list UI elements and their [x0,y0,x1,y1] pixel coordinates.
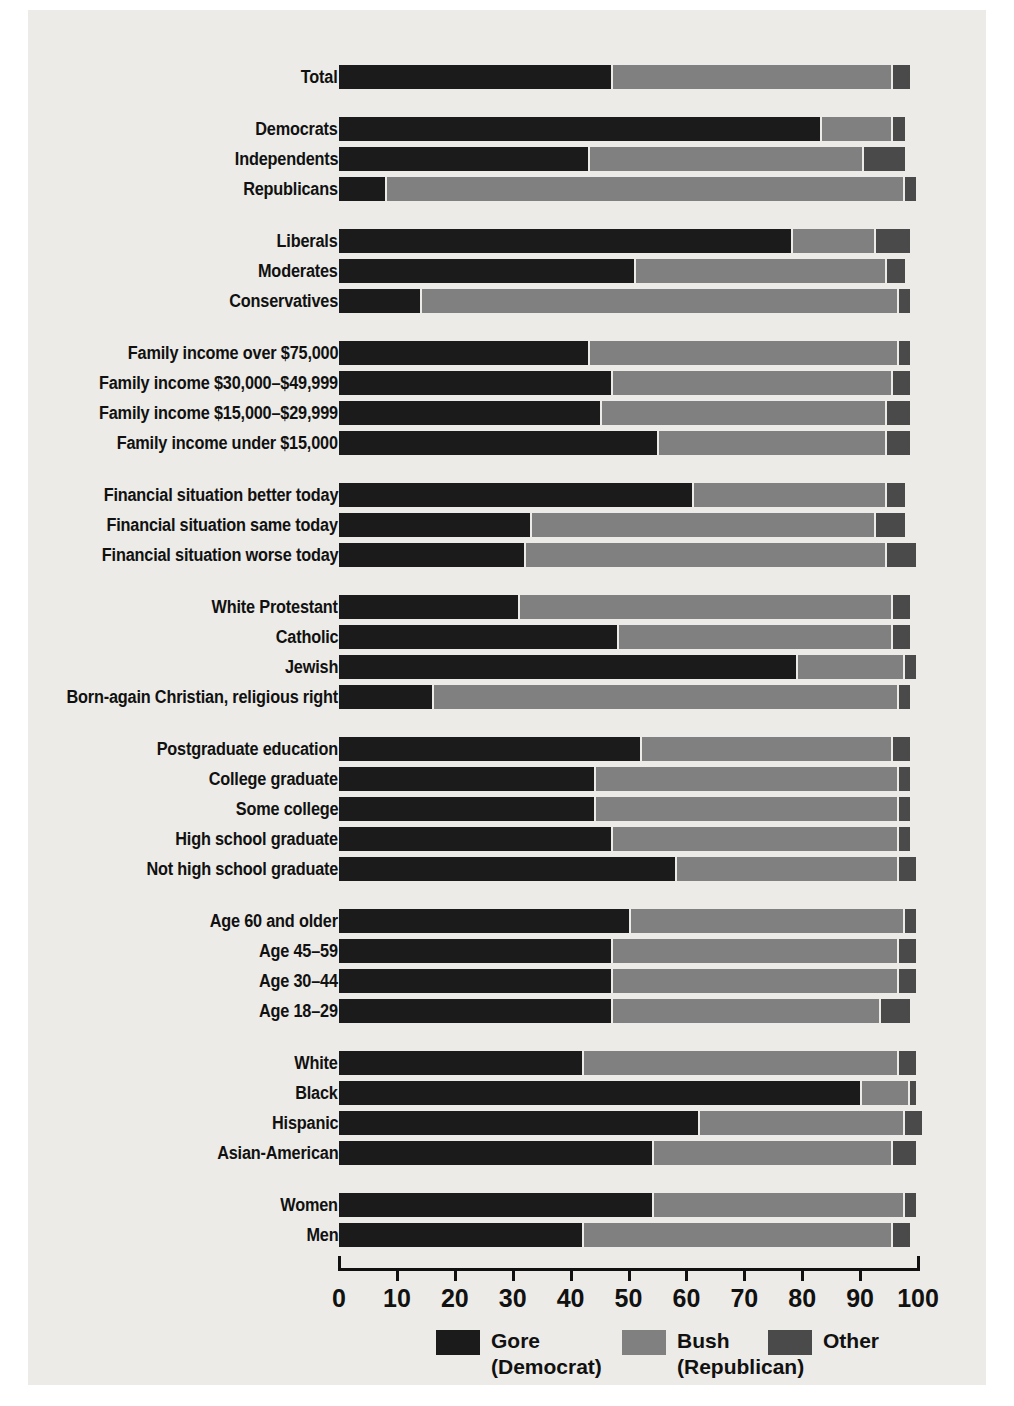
bar-row: Moderates [0,256,1014,286]
bar-segment-gore [339,1081,860,1105]
bar-row-label: Age 60 and older [210,906,338,936]
bar-row-label: Moderates [258,256,338,286]
bar-row-label: Financial situation same today [107,510,338,540]
bar-segment-bush [611,969,897,993]
bar-segment-gore [339,969,611,993]
bar-row: Catholic [0,622,1014,652]
bar-segment-other [903,177,917,201]
bar-segment-bush [698,1111,903,1135]
bar-row-label: White Protestant [212,592,338,622]
bar-segment-bush [594,797,897,821]
legend-sublabel: (Democrat) [491,1353,602,1380]
bar-segment-bush [611,371,891,395]
bar-row: Family income $15,000–$29,999 [0,398,1014,428]
bar-segment-bush [594,767,897,791]
bar-segment-gore [339,289,420,313]
bar-segment-bush [582,1051,897,1075]
axis-tick [859,1268,862,1281]
stacked-bar [339,655,916,679]
stacked-bar [339,797,910,821]
bar-row-label: Family income under $15,000 [117,428,338,458]
bar-segment-gore [339,797,594,821]
stacked-bar [339,289,910,313]
bar-segment-other [897,857,916,881]
axis-tick-label: 10 [383,1284,411,1313]
legend-swatch [768,1330,812,1355]
stacked-bar [339,1081,916,1105]
axis-tick-label: 100 [897,1284,939,1313]
bar-row-label: Catholic [275,622,338,652]
bar-row-label: Family income $15,000–$29,999 [99,398,338,428]
bar-segment-other [897,939,916,963]
bar-segment-bush [611,999,879,1023]
bar-segment-bush [860,1081,908,1105]
bar-segment-gore [339,939,611,963]
bar-segment-bush [420,289,897,313]
x-axis: 0102030405060708090100 [0,1258,1014,1318]
axis-tick-label: 20 [441,1284,469,1313]
bar-segment-other [897,685,911,709]
legend-sublabel: (Republican) [677,1353,804,1380]
bar-segment-bush [611,827,897,851]
stacked-bar [339,1051,916,1075]
bar-segment-gore [339,1051,582,1075]
bar-segment-other [879,999,910,1023]
bar-row-label: Conservatives [229,286,338,316]
bar-segment-bush [820,117,891,141]
legend-item: Other [768,1328,879,1355]
bar-segment-other [897,827,911,851]
axis-tick-label: 30 [499,1284,527,1313]
bar-segment-gore [339,827,611,851]
bar-row: Black [0,1078,1014,1108]
bar-row-label: Age 30–44 [259,966,338,996]
axis-tick [628,1268,631,1281]
axis-tick-label: 50 [615,1284,643,1313]
bar-segment-other [897,289,911,313]
bar-segment-gore [339,147,588,171]
bar-row-label: Asian-American [217,1138,338,1168]
bar-segment-gore [339,341,588,365]
axis-tick [685,1268,688,1281]
bar-segment-gore [339,655,796,679]
stacked-bar [339,1193,916,1217]
axis-tick-label: 90 [846,1284,874,1313]
bar-segment-bush [675,857,897,881]
bar-row-label: Independents [234,144,338,174]
bar-segment-gore [339,737,640,761]
bar-segment-other [891,595,910,619]
axis-tick [396,1268,399,1281]
bar-segment-gore [339,229,791,253]
bar-segment-other [891,1223,910,1247]
bar-row: Financial situation same today [0,510,1014,540]
legend-swatch [622,1330,666,1355]
axis-tick [454,1268,457,1281]
bar-segment-gore [339,1193,652,1217]
bar-segment-bush [385,177,902,201]
bar-row: Conservatives [0,286,1014,316]
bar-row: Family income $30,000–$49,999 [0,368,1014,398]
bar-segment-gore [339,999,611,1023]
bar-segment-other [874,513,905,537]
axis-tick-label: 80 [788,1284,816,1313]
bar-segment-bush [611,939,897,963]
stacked-bar [339,147,905,171]
bar-row: Age 60 and older [0,906,1014,936]
bar-segment-bush [634,259,885,283]
bar-segment-other [903,1111,922,1135]
bar-row: White [0,1048,1014,1078]
bar-row: High school graduate [0,824,1014,854]
bar-row-label: Women [280,1190,338,1220]
stacked-bar [339,1111,922,1135]
bar-segment-other [885,543,916,567]
bar-segment-bush [600,401,886,425]
bar-segment-gore [339,371,611,395]
axis-tick [338,1256,341,1271]
bar-segment-gore [339,65,611,89]
stacked-bar [339,543,916,567]
bar-row: Not high school graduate [0,854,1014,884]
bar-row-label: Republicans [243,174,338,204]
bar-segment-gore [339,177,385,201]
bar-segment-gore [339,117,820,141]
bar-row: Some college [0,794,1014,824]
bar-row-label: Black [295,1078,338,1108]
